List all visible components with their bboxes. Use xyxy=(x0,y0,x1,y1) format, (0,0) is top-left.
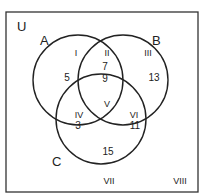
region-iv-value: 3 xyxy=(75,120,81,131)
region-vi-label: VI xyxy=(130,110,139,120)
region-v-label: V xyxy=(104,99,110,109)
region-ii-value-top: 7 xyxy=(102,61,108,72)
region-viii-label: VIII xyxy=(173,176,187,186)
region-iii-label: III xyxy=(144,48,152,58)
venn-diagram: U A B C I II III IV V VI VII VIII 5 7 9 … xyxy=(0,0,204,194)
region-vi-value: 11 xyxy=(130,120,141,131)
region-ii-label: II xyxy=(104,48,109,58)
region-i-value: 5 xyxy=(64,72,70,83)
region-vii-label: VII xyxy=(103,176,114,186)
region-i-label: I xyxy=(75,48,78,58)
universe-box xyxy=(6,12,198,192)
region-ii-value-bottom: 9 xyxy=(102,73,108,84)
set-b-label: B xyxy=(152,33,161,48)
set-c-label: C xyxy=(52,154,61,169)
region-iii-value: 13 xyxy=(148,72,160,83)
region-iv-label: IV xyxy=(75,110,84,120)
set-a-label: A xyxy=(40,33,49,48)
universe-label: U xyxy=(17,19,26,34)
region-vii-value: 15 xyxy=(102,146,114,157)
